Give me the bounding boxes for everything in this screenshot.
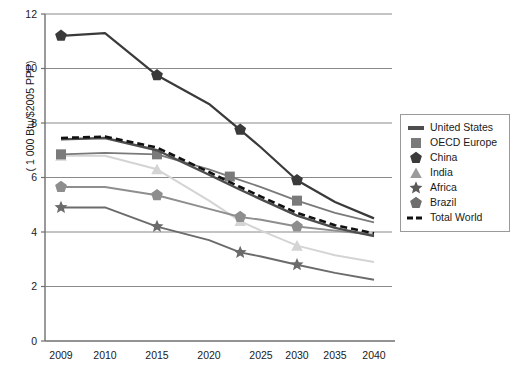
y-axis-tick-label: 4 [31,226,37,238]
y-axis-tick-label: 8 [31,117,37,129]
data-point-marker [151,220,164,232]
legend-label-united-states: United States [430,122,493,133]
legend-item-africa: Africa [407,180,505,195]
series-line [61,137,374,234]
data-point-marker [56,149,66,159]
data-point-marker [234,246,247,258]
data-point-marker [234,211,246,222]
legend-label-china: China [430,152,457,163]
x-axis-tick-label: 2010 [93,349,117,361]
legend-label-oecd-europe: OECD Europe [430,137,497,148]
legend-key-oecd-europe [407,136,425,150]
x-axis-tick-label: 2020 [197,349,221,361]
series-line [61,207,374,279]
legend-item-united-states: United States [407,120,505,135]
data-point-marker [151,189,163,200]
legend-key-india [407,166,425,180]
legend-label-africa: Africa [430,182,457,193]
legend-label-total-world: Total World [430,212,482,223]
data-point-marker [291,220,303,231]
y-axis-tick-label: 6 [31,171,37,183]
legend-item-china: China [407,150,505,165]
legend-item-brazil: Brazil [407,195,505,210]
data-point-marker [225,172,235,182]
chart-figure: ( 1 000 Btu/$2005 PPP) 02468101220092010… [0,0,516,373]
x-axis-tick-label: 2040 [362,349,386,361]
legend-key-africa [407,181,425,195]
x-axis-tick-label: 2015 [145,349,169,361]
legend-key-total-world [407,211,425,225]
data-point-marker [291,240,303,251]
x-axis-tick-label: 2035 [323,349,347,361]
legend-key-brazil [407,196,425,210]
series-line [61,33,374,218]
data-point-marker [55,181,67,192]
legend-key-china [407,151,425,165]
chart-legend: United States OECD Europe China India Af… [400,114,510,232]
x-axis-tick-label: 2030 [285,349,309,361]
legend-item-india: India [407,165,505,180]
y-axis-tick-label: 10 [25,62,37,74]
legend-key-united-states [407,121,425,135]
x-axis-tick-label: 2025 [249,349,273,361]
data-point-marker [55,201,68,213]
y-axis-tick-label: 2 [31,280,37,292]
legend-label-india: India [430,167,453,178]
legend-label-brazil: Brazil [430,197,456,208]
x-axis-tick-label: 2009 [49,349,73,361]
y-axis-tick-label: 0 [31,335,37,347]
data-point-marker [55,30,67,41]
legend-item-total-world: Total World [407,210,505,225]
data-point-marker [292,196,302,206]
legend-item-oecd-europe: OECD Europe [407,135,505,150]
y-axis-tick-label: 12 [25,8,37,20]
data-point-marker [291,258,304,270]
